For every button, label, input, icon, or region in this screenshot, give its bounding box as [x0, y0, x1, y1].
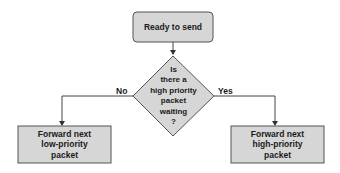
decision-node-label: Is there a high priority packet waiting …: [133, 62, 214, 130]
start-node-label: Ready to send: [133, 12, 213, 42]
low-priority-node-label: Forward next low-priority packet: [18, 126, 111, 163]
edge-yes: [214, 96, 275, 125]
arrowhead-icon: [170, 50, 176, 55]
edge-no: [62, 96, 133, 125]
high-priority-node-label: Forward next high-priority packet: [231, 126, 324, 163]
edge-label-yes: Yes: [218, 86, 233, 96]
edge-label-no: No: [116, 86, 127, 96]
